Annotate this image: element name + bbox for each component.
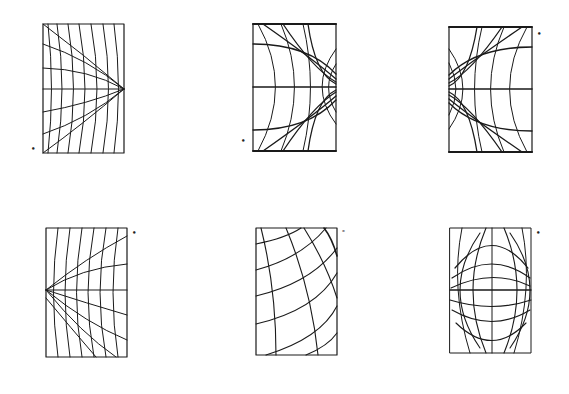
panel-mark: •: [241, 138, 245, 145]
perspective-sketch-6: •: [450, 228, 531, 353]
perspective-sketch-1: •: [43, 24, 124, 153]
panel-mark: •: [31, 146, 35, 153]
panel-mark: •: [537, 31, 541, 38]
curved-diagonal-grid-icon: [256, 228, 337, 355]
perspective-sketch-3: •: [449, 27, 532, 152]
perspective-sketch-2: •: [253, 24, 336, 151]
dipole-right-grid-icon: [253, 24, 336, 151]
fan-left-grid-icon: [46, 228, 127, 357]
perspective-sketch-5: -: [256, 228, 337, 355]
fan-right-grid-icon: [43, 24, 124, 153]
panel-mark: •: [536, 230, 540, 237]
dipole-left-grid-icon: [449, 27, 532, 152]
perspective-sketch-4: •: [46, 228, 127, 357]
panel-mark: -: [342, 228, 345, 235]
sketch-sheet: • •: [0, 0, 569, 394]
panel-mark: •: [132, 230, 136, 237]
fisheye-grid-icon: [450, 228, 531, 353]
